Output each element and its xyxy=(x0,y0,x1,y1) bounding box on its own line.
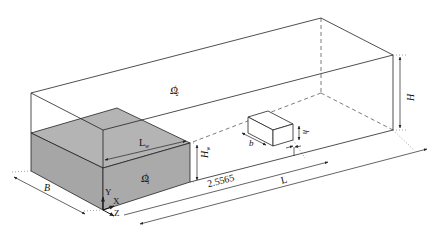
obstacle-box xyxy=(248,111,293,146)
label-Lw: Lw xyxy=(139,138,149,149)
omega1-label: Ωf1 xyxy=(141,173,150,185)
label-h: h xyxy=(301,130,309,134)
label-H: H xyxy=(405,93,415,100)
domain-diagram xyxy=(0,0,442,236)
label-Hw: Hw xyxy=(200,147,211,158)
omega2-label: Ωf2 xyxy=(170,85,179,97)
axis-X-label: X xyxy=(113,197,120,206)
label-B: B xyxy=(44,183,50,193)
axis-Y-label: Y xyxy=(105,188,112,197)
axis-Z-label: Z xyxy=(114,209,120,218)
label-b: b xyxy=(249,139,254,148)
